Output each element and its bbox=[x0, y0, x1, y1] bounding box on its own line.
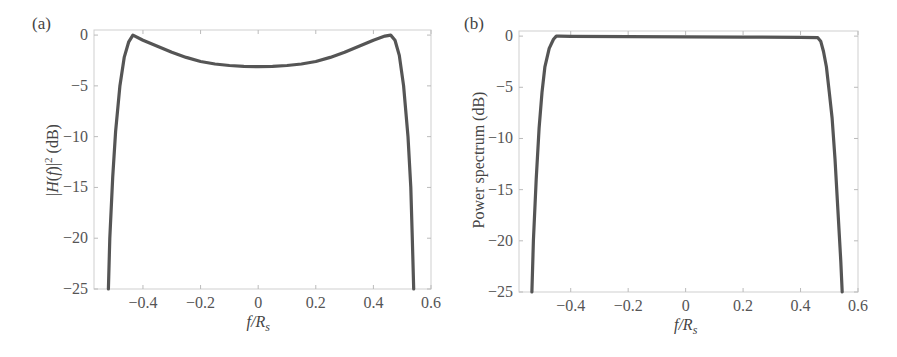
y-tick-label: −20 bbox=[63, 229, 88, 246]
y-tick-label: −20 bbox=[488, 232, 513, 249]
x-tick-label: 0.4 bbox=[791, 297, 811, 314]
x-axis-label: f/Rs bbox=[674, 316, 698, 337]
x-axis-label: f/Rs bbox=[247, 313, 271, 334]
y-tick-label: −25 bbox=[63, 280, 88, 297]
y-tick-label: −5 bbox=[71, 77, 88, 94]
x-tick-label: 0 bbox=[682, 297, 690, 314]
x-tick-label: −0.2 bbox=[614, 297, 643, 314]
x-tick-label: 0.6 bbox=[848, 297, 868, 314]
x-tick-label: 0 bbox=[254, 294, 262, 311]
plot-frame bbox=[94, 30, 431, 289]
data-curve bbox=[108, 35, 413, 289]
y-tick-label: 0 bbox=[505, 27, 513, 44]
y-axis-label: |H(f)|2 (dB) bbox=[42, 124, 62, 196]
x-tick-label: −0.4 bbox=[128, 294, 157, 311]
y-tick-label: −15 bbox=[488, 181, 513, 198]
y-tick-label: −25 bbox=[488, 283, 513, 300]
x-tick-label: −0.2 bbox=[186, 294, 215, 311]
y-tick-label: 0 bbox=[80, 26, 88, 43]
y-axis-label: Power spectrum (dB) bbox=[470, 92, 488, 229]
y-tick-label: −5 bbox=[496, 78, 513, 95]
data-curve bbox=[532, 36, 842, 292]
x-tick-label: 0.4 bbox=[363, 294, 383, 311]
x-tick-label: 0.6 bbox=[421, 294, 441, 311]
y-tick-label: −10 bbox=[488, 129, 513, 146]
x-tick-label: 0.2 bbox=[733, 297, 753, 314]
y-tick-label: −10 bbox=[63, 128, 88, 145]
x-tick-label: 0.2 bbox=[306, 294, 326, 311]
chart-panel-b: (b) −0.4−0.200.20.40.60−5−10−15−20−25f/R… bbox=[448, 0, 897, 357]
y-tick-label: −15 bbox=[63, 178, 88, 195]
plot-frame bbox=[519, 31, 858, 292]
chart-a-svg: −0.4−0.200.20.40.60−5−10−15−20−25f/Rs|H(… bbox=[0, 0, 448, 357]
x-tick-label: −0.4 bbox=[556, 297, 585, 314]
chart-b-svg: −0.4−0.200.20.40.60−5−10−15−20−25f/RsPow… bbox=[448, 0, 897, 357]
chart-panel-a: (a) −0.4−0.200.20.40.60−5−10−15−20−25f/R… bbox=[0, 0, 448, 357]
